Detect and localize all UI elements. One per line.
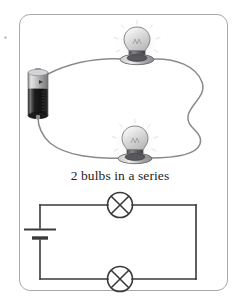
circuit-diagram-page: 2 bulbs in a series: [0, 0, 240, 300]
battery-cell-symbol: [24, 230, 56, 239]
lamp-symbol-bottom: [108, 267, 133, 292]
schematic-circuit: [0, 0, 240, 300]
lamp-symbol-top: [108, 193, 133, 218]
